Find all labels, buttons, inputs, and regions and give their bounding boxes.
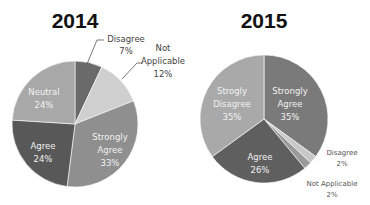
- label-not-applicable-pct-2014: 12%: [154, 69, 173, 79]
- chart-canvas: 2014 2015 Disagree 7% Not Applicable 12%…: [0, 0, 370, 205]
- pie-2014: [12, 61, 138, 187]
- label-agree-pct-2014: 24%: [34, 154, 53, 164]
- label-disagree-2014: Disagree: [107, 34, 145, 44]
- label-agree-2015: Agree: [248, 152, 273, 162]
- label-disagree-2015: Disagree: [326, 149, 357, 157]
- label-disagree-pct-2014: 7%: [119, 46, 133, 56]
- label-agree-2014: Agree: [31, 141, 56, 151]
- label-strongly-agree-pct-2015: 35%: [281, 112, 300, 122]
- label-strogly-disagree-pct-2015: 35%: [223, 112, 242, 122]
- label-strongly-agree-line1-2014: Strongly: [92, 132, 127, 142]
- label-strogly-disagree-line1-2015: Strogly: [217, 86, 247, 96]
- label-neutral-2014: Neutral: [28, 87, 59, 97]
- label-not-applicable-line1-2014: Not: [156, 43, 172, 53]
- label-strogly-disagree-line2-2015: Disagree: [213, 99, 251, 109]
- chart-title-2015: 2015: [241, 9, 288, 32]
- label-disagree-pct-2015: 2%: [336, 160, 347, 168]
- label-strongly-agree-pct-2014: 33%: [101, 158, 120, 168]
- label-not-applicable-pct-2015: 2%: [326, 191, 337, 199]
- label-strongly-agree-line2-2015: Agree: [278, 99, 303, 109]
- label-strongly-agree-line2-2014: Agree: [98, 145, 123, 155]
- chart-title-2014: 2014: [52, 9, 99, 32]
- label-neutral-pct-2014: 24%: [35, 100, 54, 110]
- label-strongly-agree-line1-2015: Strongly: [272, 86, 307, 96]
- leader-line-disagree-2014: [87, 40, 104, 64]
- leader-line-not-applicable-2014: [122, 63, 143, 79]
- label-not-applicable-2015: Not Applicable: [307, 180, 358, 188]
- label-not-applicable-line2-2014: Applicable: [141, 56, 185, 66]
- label-agree-pct-2015: 26%: [251, 165, 270, 175]
- pie-2015: [200, 55, 328, 183]
